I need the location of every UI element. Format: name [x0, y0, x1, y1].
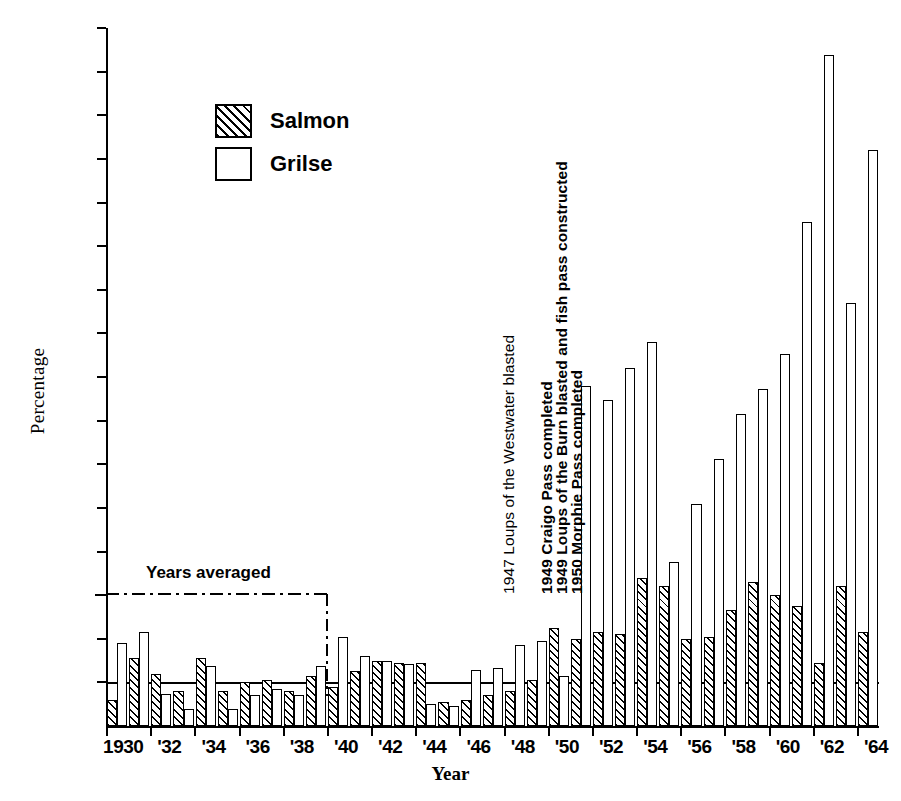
bar-grilse — [449, 706, 459, 726]
x-tick — [415, 727, 417, 736]
y-tick — [97, 202, 106, 204]
bar-grilse — [780, 354, 790, 726]
bar-salmon — [438, 702, 448, 726]
bar-grilse — [316, 666, 326, 726]
x-tick — [459, 727, 461, 736]
x-tick — [504, 727, 506, 736]
y-tick — [97, 27, 106, 29]
bar-grilse — [714, 459, 724, 726]
legend-label-salmon: Salmon — [270, 108, 349, 134]
x-tick — [636, 727, 638, 736]
legend: Salmon Grilse — [215, 104, 349, 190]
x-tick — [283, 727, 285, 736]
y-tick — [97, 245, 106, 247]
bar-grilse — [537, 641, 547, 726]
bar-grilse — [426, 704, 436, 726]
x-tick-label: 1930 — [103, 736, 143, 758]
legend-swatch-grilse — [215, 147, 252, 181]
y-tick — [97, 158, 106, 160]
x-tick — [857, 727, 859, 736]
x-tick-label: '58 — [731, 736, 755, 758]
bar-grilse — [603, 400, 613, 726]
annotation-1947-westwater: 1947 Loups of the Westwater blasted — [500, 335, 518, 594]
bar-salmon — [792, 606, 802, 726]
y-tick — [97, 114, 106, 116]
x-tick — [106, 727, 108, 736]
bar-grilse — [294, 695, 304, 726]
bar-salmon — [350, 671, 360, 726]
bar-grilse — [250, 695, 260, 726]
chart-figure: Percentage Year 100200300400500600700800… — [0, 0, 901, 801]
bar-salmon — [836, 586, 846, 726]
bar-salmon — [770, 595, 780, 726]
bar-grilse — [360, 656, 370, 726]
bar-salmon — [461, 700, 471, 726]
x-tick — [592, 727, 594, 736]
bar-salmon — [549, 628, 559, 726]
bar-salmon — [218, 691, 228, 726]
x-tick-label: '60 — [776, 736, 800, 758]
bar-grilse — [559, 676, 569, 726]
y-tick — [97, 420, 106, 422]
x-tick — [680, 727, 682, 736]
bar-salmon — [372, 661, 382, 726]
bar-grilse — [228, 709, 238, 726]
bar-salmon — [748, 582, 758, 726]
bar-salmon — [240, 682, 250, 726]
bar-grilse — [272, 689, 282, 726]
x-tick — [194, 727, 196, 736]
bar-grilse — [161, 694, 171, 726]
bar-grilse — [117, 643, 127, 726]
bar-grilse — [647, 342, 657, 726]
bar-grilse — [206, 666, 216, 726]
bar-salmon — [615, 634, 625, 726]
x-tick-label: '56 — [687, 736, 711, 758]
bar-salmon — [196, 658, 206, 726]
bar-grilse — [691, 504, 701, 726]
bar-salmon — [129, 658, 139, 726]
y-tick — [97, 681, 106, 683]
bar-salmon — [394, 663, 404, 726]
bar-grilse — [758, 389, 768, 726]
x-tick — [813, 727, 815, 736]
bar-grilse — [382, 661, 392, 726]
bar-grilse — [802, 222, 812, 726]
bar-grilse — [846, 303, 856, 726]
y-tick — [97, 463, 106, 465]
legend-item-salmon: Salmon — [215, 104, 349, 138]
x-tick-label: '52 — [599, 736, 623, 758]
x-tick-label: '54 — [643, 736, 667, 758]
bar-salmon — [681, 639, 691, 726]
y-tick — [97, 551, 106, 553]
x-tick-label: '42 — [378, 736, 402, 758]
x-tick — [769, 727, 771, 736]
x-tick-label: '50 — [555, 736, 579, 758]
y-tick — [97, 289, 106, 291]
legend-item-grilse: Grilse — [215, 147, 349, 181]
bar-salmon — [704, 637, 714, 726]
bar-grilse — [669, 562, 679, 726]
bar-grilse — [404, 664, 414, 726]
bar-salmon — [858, 632, 868, 726]
bar-grilse — [736, 414, 746, 726]
bar-salmon — [637, 578, 647, 726]
x-tick-label: '38 — [290, 736, 314, 758]
bar-grilse — [493, 668, 503, 726]
years-averaged-horizontal-line — [106, 593, 328, 595]
bar-salmon — [262, 680, 272, 726]
bar-salmon — [726, 610, 736, 726]
years-averaged-label: Years averaged — [146, 563, 271, 583]
x-axis-line — [106, 726, 879, 728]
y-tick — [95, 594, 106, 596]
bar-grilse — [139, 632, 149, 726]
bar-grilse — [868, 150, 878, 726]
bar-salmon — [659, 586, 669, 726]
x-tick-label: '44 — [422, 736, 446, 758]
x-tick — [327, 727, 329, 736]
x-tick-label: '40 — [334, 736, 358, 758]
y-tick — [97, 638, 106, 640]
x-tick-label: '46 — [466, 736, 490, 758]
bar-grilse — [338, 637, 348, 726]
y-axis-title: Percentage — [27, 291, 49, 491]
years-averaged-vertical-line — [326, 594, 328, 696]
